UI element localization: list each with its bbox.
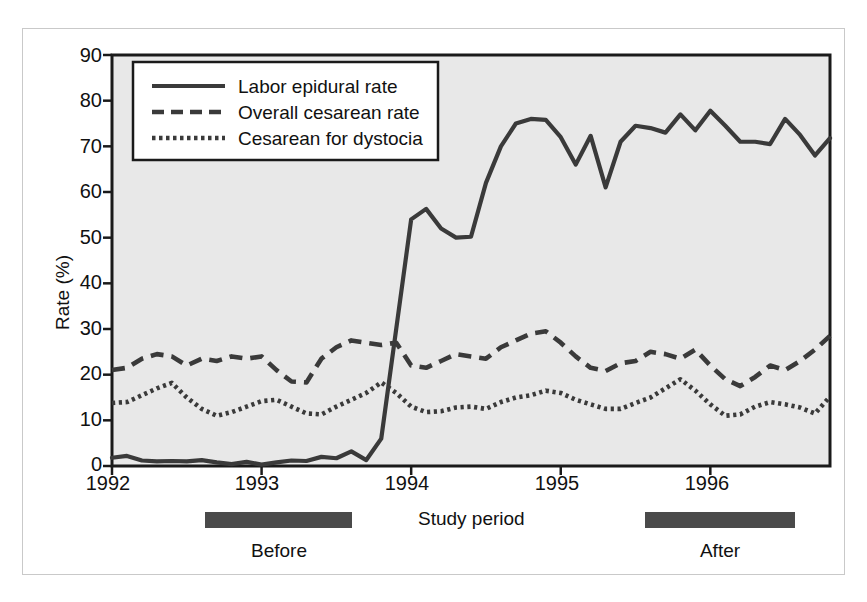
legend-label-cesarean: Overall cesarean rate (238, 102, 420, 123)
period-bar-before (205, 512, 352, 528)
legend-label-epidural: Labor epidural rate (238, 76, 398, 97)
legend-label-dystocia: Cesarean for dystocia (238, 128, 423, 149)
chart-legend: Labor epidural rate Overall cesarean rat… (133, 62, 438, 160)
figure-container: Rate (%) 90 80 70 60 50 40 30 20 10 0 19… (0, 0, 867, 602)
period-bar-after (645, 512, 795, 528)
chart-canvas: Labor epidural rate Overall cesarean rat… (0, 0, 867, 602)
